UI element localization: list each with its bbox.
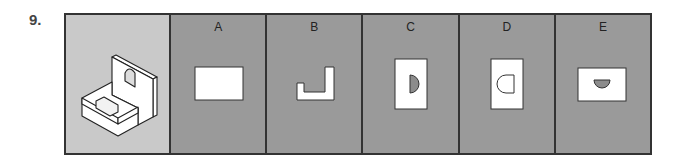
l-notch-icon bbox=[267, 15, 364, 153]
question-board: A B C D E bbox=[64, 13, 652, 155]
half-disc-bottom-icon bbox=[556, 15, 651, 153]
isometric-object-icon bbox=[66, 15, 172, 153]
half-disc-left-outline-icon bbox=[460, 15, 557, 153]
option-c[interactable]: C bbox=[363, 15, 459, 153]
half-disc-right-icon bbox=[363, 15, 460, 153]
prompt-cell bbox=[66, 15, 171, 153]
question-number: 9. bbox=[29, 11, 42, 28]
option-d[interactable]: D bbox=[460, 15, 556, 153]
option-e[interactable]: E bbox=[556, 15, 650, 153]
option-a[interactable]: A bbox=[171, 15, 267, 153]
option-b[interactable]: B bbox=[267, 15, 363, 153]
rectangle-icon bbox=[171, 15, 268, 153]
